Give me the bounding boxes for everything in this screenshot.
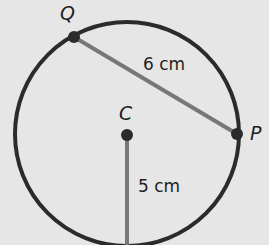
point-p-label: P [250, 122, 262, 144]
center-c-label: C [119, 102, 133, 124]
center-c-dot [121, 129, 133, 141]
radius-length-label: 5 cm [138, 176, 180, 196]
chord-length-label: 6 cm [143, 54, 185, 74]
chord-qp [74, 37, 237, 134]
point-p-dot [231, 128, 243, 140]
point-q-dot [68, 31, 80, 43]
circle-diagram: Q P C 6 cm 5 cm [0, 0, 269, 245]
point-q-label: Q [60, 2, 75, 24]
diagram-canvas: Q P C 6 cm 5 cm [0, 0, 269, 245]
